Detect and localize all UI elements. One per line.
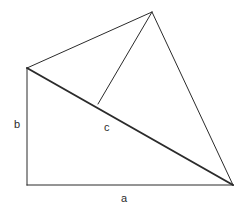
geometry-figure: b c a bbox=[0, 0, 246, 213]
label-side-b: b bbox=[14, 119, 20, 130]
label-side-a: a bbox=[121, 193, 127, 204]
apex-to-bottom-right-line bbox=[152, 12, 233, 185]
label-side-c: c bbox=[104, 122, 110, 133]
side-c-hypotenuse-line bbox=[27, 68, 233, 185]
apex-to-junction-line bbox=[98, 12, 152, 104]
figure-canvas bbox=[0, 0, 246, 213]
upper-left-edge-line bbox=[27, 12, 152, 68]
